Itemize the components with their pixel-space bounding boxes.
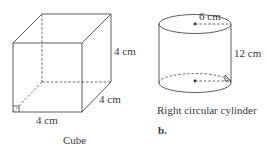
cylinder-height-label: 12 cm: [234, 47, 262, 59]
cylinder-caption: Right circular cylinder: [157, 104, 257, 116]
cube-height-label: 4 cm: [114, 45, 136, 57]
cube-top-face: [13, 14, 111, 43]
part-label-b: b.: [158, 124, 167, 136]
cube-hidden-depth-edge: [13, 82, 42, 112]
cube-depth-label: 4 cm: [99, 93, 121, 105]
geometry-figure: 4 cm 4 cm 4 cm Cube 6 cm 12 cm Right cir…: [0, 0, 267, 148]
cylinder-bottom-ellipse-visible: [159, 83, 231, 93]
cylinder-figure: 6 cm 12 cm Right circular cylinder b.: [157, 10, 262, 136]
cube-caption: Cube: [63, 134, 86, 146]
cylinder-top-center-dot: [194, 23, 197, 26]
cylinder-radius-label: 6 cm: [199, 10, 221, 22]
cube-figure: 4 cm 4 cm 4 cm Cube: [13, 14, 136, 146]
cube-width-label: 4 cm: [36, 114, 58, 126]
cylinder-right-angle-diagonal: [225, 75, 231, 81]
cylinder-bottom-center-dot: [194, 80, 197, 83]
